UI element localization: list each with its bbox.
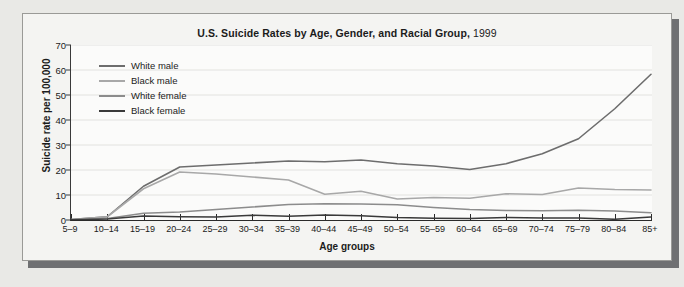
y-axis-tick-label: 20: [42, 165, 66, 176]
legend-swatch-icon: [99, 65, 125, 67]
x-axis-tick-label: 70–74: [529, 224, 554, 234]
legend-item[interactable]: White female: [99, 88, 186, 103]
y-axis-tick-label: 10: [42, 190, 66, 201]
y-axis-tick-label: 70: [42, 40, 66, 51]
legend-swatch-icon: [99, 95, 125, 97]
legend-item-label: White female: [131, 90, 186, 101]
x-axis-tick-label: 50–54: [384, 224, 409, 234]
chart-title-year: 1999: [473, 27, 497, 39]
legend-item[interactable]: White male: [99, 58, 186, 73]
legend-swatch-icon: [99, 80, 125, 82]
screenshot-root: U.S. Suicide Rates by Age, Gender, and R…: [0, 0, 684, 287]
x-axis-tick-label: 45–49: [347, 224, 372, 234]
chart-title-main: U.S. Suicide Rates by Age, Gender, and R…: [197, 27, 470, 39]
legend-item[interactable]: Black male: [99, 73, 186, 88]
x-axis-tick-label: 55–59: [420, 224, 445, 234]
x-axis-tick-label: 10–14: [94, 224, 119, 234]
x-axis-tick-label: 5–9: [62, 224, 77, 234]
y-axis-tick-labels: 010203040506070: [37, 45, 66, 220]
legend-swatch-icon: [99, 110, 125, 112]
x-axis-tick-label: 35–39: [275, 224, 300, 234]
x-axis-tick-label: 65–69: [492, 224, 517, 234]
chart-title: U.S. Suicide Rates by Age, Gender, and R…: [23, 27, 671, 39]
legend-item-label: White male: [131, 60, 179, 71]
y-axis-tick-label: 50: [42, 90, 66, 101]
chart-legend: White maleBlack maleWhite femaleBlack fe…: [99, 58, 186, 118]
x-axis-tick-label: 25–29: [202, 224, 227, 234]
x-axis-tick-label: 60–64: [456, 224, 481, 234]
x-axis-tick-label: 20–24: [166, 224, 191, 234]
x-axis-tick-label: 80–84: [601, 224, 626, 234]
x-axis-tick-label: 30–34: [239, 224, 264, 234]
x-axis-tick-label: 85+: [642, 224, 657, 234]
x-axis-tick-label: 40–44: [311, 224, 336, 234]
x-axis-tick-labels: 5–910–1415–1920–2425–2930–3435–3940–4445…: [70, 224, 651, 238]
chart-panel: U.S. Suicide Rates by Age, Gender, and R…: [22, 13, 672, 261]
y-axis-tick-label: 60: [42, 65, 66, 76]
legend-item-label: Black male: [131, 75, 177, 86]
x-axis-title: Age groups: [23, 241, 671, 252]
y-axis-tick-label: 30: [42, 140, 66, 151]
legend-item-label: Black female: [131, 105, 185, 116]
y-axis-tick-label: 40: [42, 115, 66, 126]
legend-item[interactable]: Black female: [99, 103, 186, 118]
x-axis-tick-label: 75–79: [565, 224, 590, 234]
x-axis-tick-label: 15–19: [130, 224, 155, 234]
